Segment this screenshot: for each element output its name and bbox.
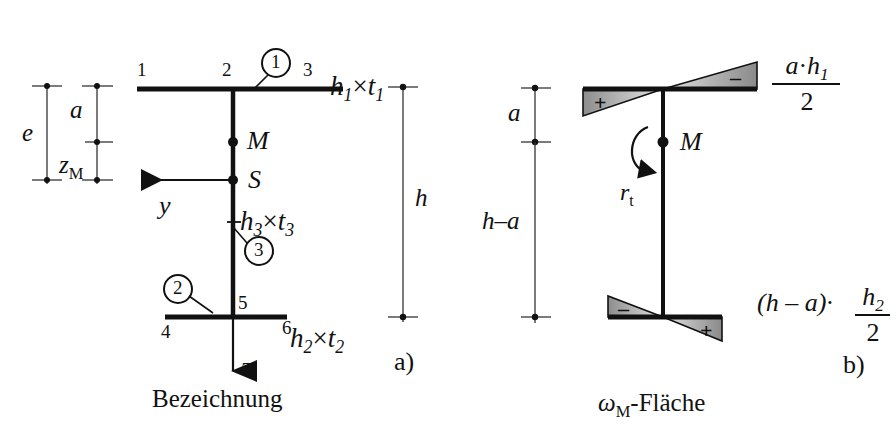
panel-b-id: b) (843, 352, 865, 378)
omega-bottom-right-area (663, 317, 722, 341)
dimension-e (32, 83, 62, 184)
part-marker-3-label: 3 (254, 240, 264, 259)
part-marker-2 (164, 275, 213, 313)
node-label-4: 4 (161, 322, 171, 341)
label-dimension-a: a (70, 97, 83, 122)
label-rt: rt (620, 180, 634, 209)
sign-top-right: – (730, 67, 741, 89)
dimension-b-a (521, 85, 551, 145)
label-dimension-h: h (415, 185, 428, 210)
node-label-1: 1 (137, 60, 147, 79)
label-b-dimension-a: a (508, 100, 521, 125)
dimension-h (388, 84, 418, 322)
formula-top-numerator: a·h1 (772, 53, 842, 83)
label-axis-z: z (241, 354, 251, 380)
sign-top-left: + (594, 92, 607, 114)
part-marker-2-label: 2 (173, 278, 183, 297)
node-label-2: 2 (222, 60, 232, 79)
point-m-marker (228, 137, 238, 147)
label-b-point-m: M (680, 129, 702, 155)
node-label-3: 3 (303, 60, 313, 79)
b-point-m-marker (658, 137, 669, 148)
part-marker-1-label: 1 (271, 52, 281, 71)
dimension-b-h-minus-a (521, 142, 551, 323)
label-b-dimension-h-minus-a: h–a (482, 208, 520, 233)
formula-top-denominator: 2 (772, 89, 842, 115)
formula-bottom-denominator: 2 (855, 320, 891, 346)
label-point-m: M (247, 128, 269, 154)
label-top-flange-dims: h1×t1 (330, 73, 384, 105)
omega-bottom-left-area (608, 296, 663, 317)
formula-bottom-numerator: h2 (855, 284, 891, 314)
figure-canvas (0, 0, 896, 445)
panel-a-id: a) (394, 349, 414, 375)
formula-bottom-prefix: (h – a)· (757, 290, 833, 316)
node-label-5: 5 (238, 293, 248, 312)
dimension-a-zm (82, 83, 113, 184)
rt-rotation-arrow (632, 127, 648, 172)
label-dimension-e: e (22, 120, 33, 145)
label-web-dims: h3×t3 (240, 208, 294, 240)
label-dimension-zm: zM (59, 152, 83, 183)
label-axis-y: y (159, 193, 171, 219)
omega-top-right-area (663, 62, 757, 89)
label-bottom-flange-dims: h2×t2 (290, 325, 344, 357)
caption-panel-a: Bezeichnung (152, 386, 283, 411)
caption-panel-b: ωM-Fläche (598, 390, 705, 421)
sign-bottom-left: – (618, 298, 629, 320)
label-point-s: S (248, 167, 261, 193)
sign-bottom-right: + (700, 320, 713, 342)
